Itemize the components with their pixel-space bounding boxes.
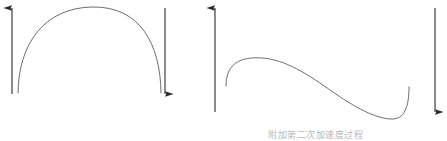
- s-curve: [226, 58, 409, 119]
- figure-canvas: 附加第二次加速度过程: [0, 0, 447, 141]
- arch-curve: [18, 7, 161, 93]
- arch-panel: [12, 7, 165, 94]
- s-curve-panel: [215, 8, 435, 119]
- diagram-svg: [0, 0, 447, 141]
